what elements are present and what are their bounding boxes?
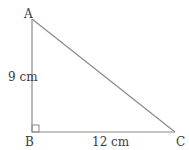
- vertex-label-b: B: [25, 135, 34, 149]
- side-label-ab: 9 cm: [8, 70, 38, 84]
- right-angle-marker-icon: [32, 125, 39, 132]
- side-ac-hypotenuse: [32, 19, 175, 132]
- side-label-bc: 12 cm: [92, 135, 130, 149]
- triangle-diagram: A B C 9 cm 12 cm: [0, 0, 189, 150]
- vertex-label-c: C: [176, 135, 185, 149]
- vertex-label-a: A: [23, 7, 33, 21]
